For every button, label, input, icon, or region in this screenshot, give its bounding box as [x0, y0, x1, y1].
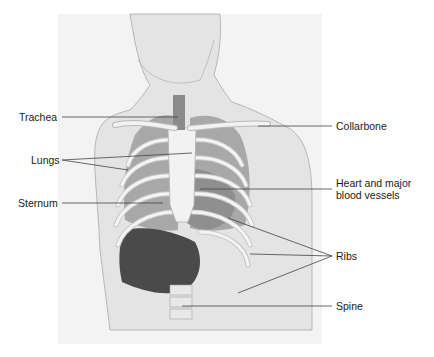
- spine-shape: [170, 285, 192, 319]
- sternum-shape: [168, 128, 196, 222]
- label-lungs: Lungs: [31, 154, 60, 166]
- label-heart: Heart and major blood vessels: [336, 177, 411, 201]
- label-trachea: Trachea: [19, 111, 57, 123]
- label-ribs: Ribs: [336, 250, 357, 262]
- label-heart-line2: blood vessels: [336, 189, 411, 201]
- trachea-shape: [173, 95, 185, 130]
- label-collarbone: Collarbone: [336, 120, 387, 132]
- label-spine: Spine: [336, 300, 363, 312]
- label-heart-line1: Heart and major: [336, 177, 411, 189]
- label-sternum: Sternum: [18, 197, 58, 209]
